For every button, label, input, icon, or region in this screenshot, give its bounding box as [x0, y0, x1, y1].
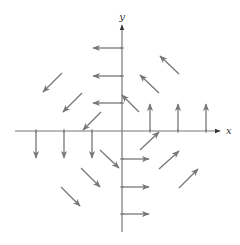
arrow-nw-2-icon — [140, 75, 159, 93]
arrow-se-2-icon — [81, 168, 100, 187]
vector-field-diagram: x y — [0, 0, 240, 245]
arrow-nw-1-icon — [160, 56, 179, 74]
arrow-ne-2-icon — [159, 151, 179, 169]
x-axis-label: x — [226, 125, 232, 136]
arrow-ne-1-icon — [140, 132, 159, 150]
arrow-se-1-icon — [100, 150, 119, 168]
y-axis-label: y — [118, 11, 125, 22]
arrow-se-3-icon — [61, 187, 80, 206]
arrow-sw-2-icon — [63, 93, 82, 112]
arrow-sw-1-icon — [43, 73, 62, 92]
arrow-sw-3-icon — [83, 112, 101, 130]
axes: x y — [15, 11, 232, 232]
arrow-ne-3-icon — [179, 169, 198, 188]
arrow-nw-3-icon — [122, 95, 139, 112]
